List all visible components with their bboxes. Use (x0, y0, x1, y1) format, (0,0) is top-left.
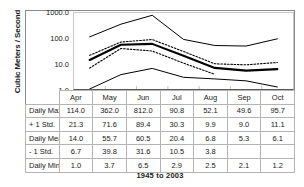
table-row: Daily Max114.0362.0812.090.852.149.695.7 (26, 104, 295, 118)
column-header-aug: Aug (194, 91, 228, 105)
table-row: - 1 Std.6.739.831.610.53.8 (26, 145, 295, 159)
table-cell: 21.3 (59, 118, 93, 132)
table-cell: 30.3 (160, 118, 194, 132)
column-header-sep: Sep (227, 91, 261, 105)
table-body: Daily Max114.0362.0812.090.852.149.695.7… (26, 104, 295, 172)
column-header-may: May (93, 91, 127, 105)
streamflow-statistics-figure: Cubic Meters / Second 1000.0100.010.01.0… (0, 0, 304, 187)
y-tick-label: 10.0 (25, 60, 69, 69)
table-cell: 52.1 (194, 104, 228, 118)
table-cell: 812.0 (126, 104, 160, 118)
table-cell (227, 145, 261, 159)
table-cell: 362.0 (93, 104, 127, 118)
column-header-jun: Jun (126, 91, 160, 105)
table-header: AprMayJunJulAugSepOct (26, 91, 295, 105)
statistics-data-table: AprMayJunJulAugSepOct Daily Max114.0362.… (25, 90, 295, 173)
chart-plot-area (73, 12, 294, 90)
series-line-1-std (90, 40, 278, 65)
table-cell: 55.7 (93, 131, 127, 145)
table-header-row: AprMayJunJulAugSepOct (26, 91, 295, 105)
row-label: Daily Max (26, 104, 60, 118)
table-cell: 95.7 (261, 104, 295, 118)
table-cell: 114.0 (59, 104, 93, 118)
column-header-jul: Jul (160, 91, 194, 105)
table-cell: 20.4 (160, 131, 194, 145)
table-cell: 71.6 (93, 118, 127, 132)
table-cell: 6.8 (194, 131, 228, 145)
table-cell: 9.9 (194, 118, 228, 132)
table-cell: 89.4 (126, 118, 160, 132)
table-cell: 6.1 (261, 131, 295, 145)
y-axis-tick-labels: 1000.0100.010.01.0 (25, 10, 69, 90)
column-header-apr: Apr (59, 91, 93, 105)
table-row: + 1 Std.21.371.689.430.39.99.011.1 (26, 118, 295, 132)
table-cell: 5.3 (227, 131, 261, 145)
series-line-daily-mean (90, 44, 278, 71)
table-cell: 9.0 (227, 118, 261, 132)
table-cell: 10.5 (160, 145, 194, 159)
row-label: - 1 Std. (26, 145, 60, 159)
table-cell: 60.5 (126, 131, 160, 145)
y-tick-label: 1000.0 (25, 8, 69, 17)
column-header-oct: Oct (261, 91, 295, 105)
table-cell: 14.0 (59, 131, 93, 145)
period-of-record-caption: 1945 to 2003 (25, 171, 295, 180)
table-cell: 6.7 (59, 145, 93, 159)
y-tick-label: 100.0 (25, 34, 69, 43)
row-label: Daily Mean (26, 131, 60, 145)
table-cell: 49.6 (227, 104, 261, 118)
table-cell: 31.6 (126, 145, 160, 159)
series-lines-svg (74, 13, 293, 89)
table-cell (261, 145, 295, 159)
y-axis-title: Cubic Meters / Second (13, 0, 22, 107)
row-label: + 1 Std. (26, 118, 60, 132)
table-cell: 39.8 (93, 145, 127, 159)
table-cell: 90.8 (160, 104, 194, 118)
table-cell: 3.8 (194, 145, 228, 159)
series-line-daily-max (90, 15, 278, 46)
table-corner-cell (26, 91, 60, 105)
table-row: Daily Mean14.055.760.520.46.85.36.1 (26, 131, 295, 145)
table-cell: 11.1 (261, 118, 295, 132)
